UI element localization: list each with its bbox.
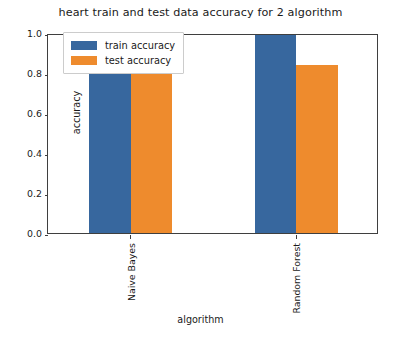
y-tick-label: 1.0 [27, 28, 42, 39]
bar-train-accuracy-Random-Forest [255, 35, 296, 233]
y-tick-label: 0.8 [27, 68, 42, 79]
y-tick-mark [45, 115, 49, 116]
y-tick-label: 0.6 [27, 108, 42, 119]
y-tick-mark [45, 235, 49, 236]
y-tick-mark [45, 35, 49, 36]
legend-item-test: test accuracy [71, 53, 175, 68]
bar-test-accuracy-Random-Forest [296, 65, 337, 233]
y-tick-label: 0.4 [27, 148, 42, 159]
y-tick-mark [45, 195, 49, 196]
chart-legend: train accuracy test accuracy [63, 32, 184, 74]
y-tick-label: 0.0 [27, 228, 42, 239]
bar-test-accuracy-Naive-Bayes [131, 68, 172, 233]
legend-swatch-test [71, 56, 97, 65]
x-axis-label: algorithm [0, 314, 401, 325]
legend-swatch-train [71, 41, 97, 50]
matplotlib-figure: heart train and test data accuracy for 2… [0, 0, 401, 344]
plot-axes: accuracy 0.00.20.40.60.81.0 Naive BayesR… [47, 34, 378, 234]
y-tick-mark [45, 155, 49, 156]
legend-label-test: test accuracy [105, 55, 171, 66]
y-tick-label: 0.2 [27, 188, 42, 199]
bar-train-accuracy-Naive-Bayes [89, 67, 130, 233]
y-tick-mark [45, 75, 49, 76]
legend-label-train: train accuracy [105, 40, 175, 51]
legend-item-train: train accuracy [71, 38, 175, 53]
chart-title: heart train and test data accuracy for 2… [0, 6, 401, 19]
